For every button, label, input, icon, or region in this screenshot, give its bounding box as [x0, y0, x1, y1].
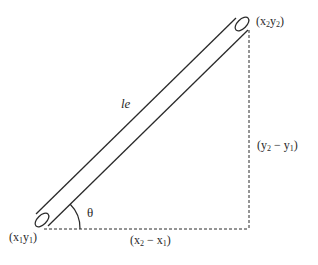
start-node-label: (x1y1): [9, 231, 37, 245]
end-node-label: (x2y2): [256, 15, 284, 29]
angle-arc: [70, 204, 80, 229]
cylinder-end-bottom: [33, 211, 52, 229]
angle-theta-label: θ: [87, 206, 93, 219]
element-length-label: le: [121, 97, 130, 110]
vertical-projection-label: (y2 − y1): [257, 139, 298, 153]
bar-element-diagram: [0, 0, 318, 265]
cylinder-bar: [33, 15, 252, 229]
horizontal-projection-label: (x2 − x1): [130, 234, 171, 248]
